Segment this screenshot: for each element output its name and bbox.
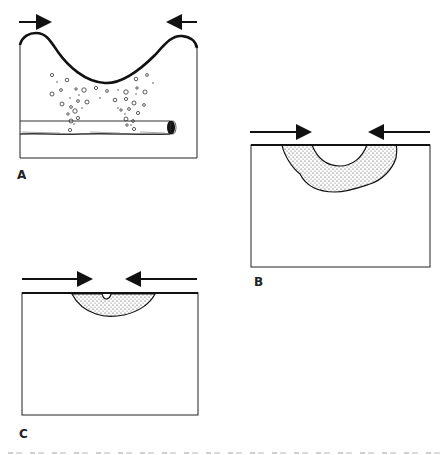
stippled-zone	[72, 294, 155, 316]
curved-surface	[20, 33, 197, 83]
panel-label-a: A	[17, 168, 26, 182]
panel-c	[22, 279, 198, 415]
horizontal-tube	[20, 121, 176, 135]
panel-label-c: C	[19, 427, 28, 441]
panel-label-b: B	[254, 275, 263, 289]
box-outline	[20, 45, 197, 158]
box-outline	[251, 145, 430, 267]
panel-a	[19, 22, 197, 158]
panel-b	[250, 132, 430, 267]
clipped-caption	[0, 449, 446, 455]
stippled-zone	[282, 145, 397, 192]
figure-canvas	[0, 0, 446, 455]
